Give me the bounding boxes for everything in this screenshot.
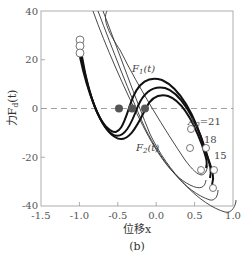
x-tick-m10: -1.0 [70, 210, 89, 221]
x-axis-label: 位移x [123, 222, 152, 236]
y-axis-label: 力Fd(t) [6, 90, 20, 127]
start-points [76, 36, 84, 57]
x-tick-00: 0.0 [148, 210, 164, 221]
chart: 40 20 0 -20 -40 -1.5 -1.0 -0.5 0.0 0.5 1… [0, 0, 244, 254]
f2-label: F2(t) [135, 142, 159, 155]
a15-label: 15 [214, 150, 227, 161]
y-tick-0: 0 [32, 103, 38, 114]
y-tick-m20: -20 [22, 152, 38, 163]
f1-label: F1(t) [131, 63, 155, 76]
x-tick-m05: -0.5 [108, 210, 127, 221]
a18-label: 18 [204, 134, 217, 145]
x-tick-m15: -1.5 [31, 210, 50, 221]
y-ticks [41, 60, 45, 158]
x-tick-05: 0.5 [187, 210, 203, 221]
equilibrium-points [115, 105, 149, 113]
svg-text:力Fd(t): 力Fd(t) [6, 90, 20, 127]
y-tick-20: 20 [25, 54, 38, 65]
y-tick-40: 40 [25, 6, 38, 17]
caption: (b) [129, 240, 145, 253]
x-ticks [79, 202, 194, 206]
f2-curves [93, 11, 236, 212]
x-tick-10: 1.0 [225, 210, 241, 221]
